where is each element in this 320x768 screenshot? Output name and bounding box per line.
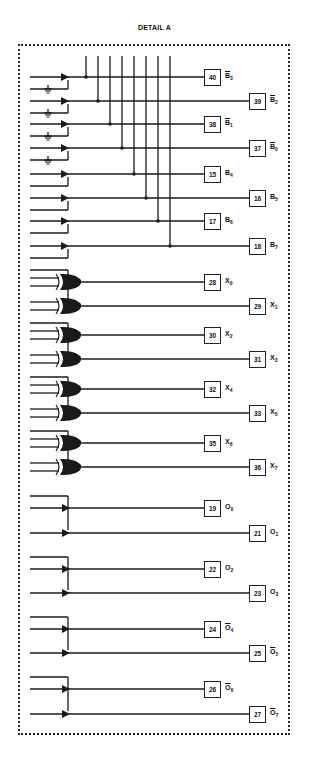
buffer-arrow-icon <box>61 144 69 152</box>
signal-label: O4 <box>225 624 233 634</box>
pin-number-box: 29 <box>249 298 266 315</box>
signal-label: X7 <box>270 462 277 472</box>
junction-dot <box>96 99 100 103</box>
signal-label: X0 <box>225 277 232 287</box>
junction-dot <box>108 122 112 126</box>
buffer-arrow-icon <box>61 242 69 250</box>
pin-number-box: 32 <box>204 381 221 398</box>
signal-label: B6 <box>225 216 233 226</box>
signal-label: O7 <box>270 709 278 719</box>
pin-number-box: 39 <box>249 93 266 110</box>
xor-gate-icon <box>60 405 82 421</box>
xor-gate-icon <box>56 327 59 343</box>
buffer-arrow-icon <box>61 97 69 105</box>
buffer-arrow-icon <box>61 217 69 225</box>
signal-label: X5 <box>270 408 277 418</box>
pin-number-box: 26 <box>204 681 221 698</box>
xor-gate-icon <box>56 298 59 314</box>
buffer-arrow-icon <box>62 565 70 573</box>
signal-label: O6 <box>225 684 233 694</box>
pin-number-box: 30 <box>204 327 221 344</box>
pin-number-box: 21 <box>249 525 266 542</box>
signal-label: X1 <box>270 301 277 311</box>
pin-number-box: 40 <box>204 69 221 86</box>
xor-gate-icon <box>60 298 82 314</box>
signal-label: B1 <box>225 119 233 129</box>
pin-number-box: 17 <box>204 213 221 230</box>
pin-number-box: 27 <box>249 706 266 723</box>
signal-label: O3 <box>270 588 278 598</box>
xor-gate-icon <box>56 381 59 397</box>
pin-number-box: 23 <box>249 585 266 602</box>
xor-gate-icon <box>56 459 59 475</box>
xor-gate-icon <box>56 435 59 451</box>
signal-label: X4 <box>225 384 232 394</box>
pin-number-box: 31 <box>249 351 266 368</box>
xor-gate-icon <box>56 274 59 290</box>
signal-label: O5 <box>270 648 278 658</box>
signal-label: X6 <box>225 438 232 448</box>
buffer-arrow-icon <box>61 120 69 128</box>
xor-gate-icon <box>60 459 82 475</box>
xor-gate-icon <box>60 435 82 451</box>
junction-dot <box>144 196 148 200</box>
pin-number-box: 24 <box>204 621 221 638</box>
pin-number-box: 33 <box>249 405 266 422</box>
buffer-arrow-icon <box>61 73 69 81</box>
xor-gate-icon <box>60 327 82 343</box>
junction-dot <box>168 244 172 248</box>
pin-number-box: 22 <box>204 561 221 578</box>
signal-label: B7 <box>270 241 278 251</box>
xor-gate-icon <box>60 381 82 397</box>
buffer-arrow-icon <box>62 589 70 597</box>
buffer-arrow-icon <box>62 529 70 537</box>
junction-dot <box>84 75 88 79</box>
xor-gate-icon <box>56 405 59 421</box>
buffer-arrow-icon <box>62 504 70 512</box>
xor-gate-icon <box>60 351 82 367</box>
signal-label: X3 <box>270 354 277 364</box>
pin-number-box: 19 <box>204 500 221 517</box>
signal-label: O2 <box>225 564 233 574</box>
pin-number-box: 18 <box>249 238 266 255</box>
signal-label: B5 <box>270 193 278 203</box>
junction-dot <box>120 146 124 150</box>
buffer-arrow-icon <box>62 685 70 693</box>
pin-number-box: 38 <box>204 116 221 133</box>
pin-number-box: 25 <box>249 645 266 662</box>
signal-label: B2 <box>270 96 278 106</box>
xor-gate-icon <box>56 351 59 367</box>
buffer-arrow-icon <box>62 710 70 718</box>
pin-number-box: 35 <box>204 435 221 452</box>
buffer-arrow-icon <box>61 170 69 178</box>
signal-label: B3 <box>225 72 233 82</box>
pin-number-box: 36 <box>249 459 266 476</box>
signal-label: O0 <box>225 503 233 513</box>
signal-label: O1 <box>270 528 278 538</box>
xor-gate-icon <box>60 274 82 290</box>
junction-dot <box>156 219 160 223</box>
pin-number-box: 15 <box>204 166 221 183</box>
buffer-arrow-icon <box>62 625 70 633</box>
signal-label: B4 <box>225 169 233 179</box>
signal-label: B0 <box>270 143 278 153</box>
pin-number-box: 37 <box>249 140 266 157</box>
pin-number-box: 28 <box>204 274 221 291</box>
pin-number-box: 16 <box>249 190 266 207</box>
junction-dot <box>132 172 136 176</box>
buffer-arrow-icon <box>62 649 70 657</box>
buffer-arrow-icon <box>61 194 69 202</box>
signal-label: X2 <box>225 330 232 340</box>
